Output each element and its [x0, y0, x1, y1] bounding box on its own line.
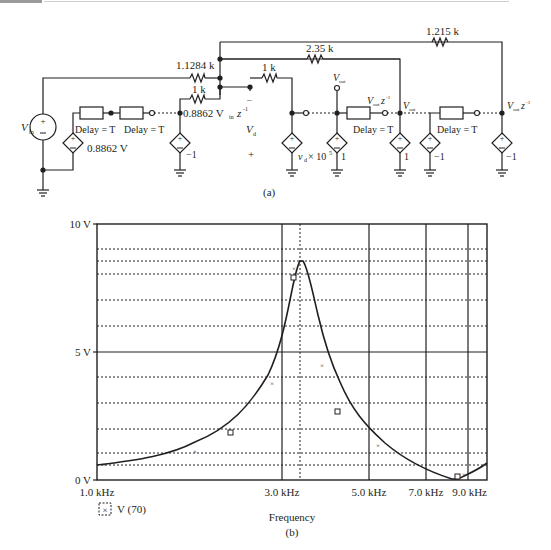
- x-tick-7k: 7.0 kHz: [409, 486, 444, 498]
- label-vd-sub: d: [253, 131, 256, 137]
- label-delay-2: Delay = T: [124, 124, 164, 135]
- ground-icon: [37, 190, 49, 196]
- label-vin: V: [21, 121, 29, 133]
- label-vd-gain-sup: 5: [329, 150, 332, 156]
- svg-text:×: ×: [376, 442, 380, 450]
- x-markers: × × × × × × ×: [102, 265, 466, 479]
- x-tick-9k: 9.0 kHz: [452, 486, 487, 498]
- label-delay-3: Delay = T: [353, 124, 393, 135]
- ground-icon: [286, 170, 298, 176]
- delay-block-4: [440, 107, 463, 119]
- label-gain-1-b: 1: [404, 151, 409, 162]
- voltage-source-vin: +: [30, 114, 56, 140]
- delay-block-2: [120, 107, 143, 119]
- label-r-2-35k: 2.35 k: [306, 42, 334, 54]
- svg-text:×: ×: [193, 448, 197, 456]
- label-r-1k-lower: 1 k: [192, 83, 206, 95]
- label-vout-z-1-sup: -1: [386, 95, 391, 100]
- figure-canvas: +: [0, 0, 551, 550]
- legend-label: V (70): [117, 503, 146, 516]
- svg-text:×: ×: [270, 380, 274, 388]
- resistor-2-35k: [220, 55, 400, 63]
- label-r-1-1284k: 1.1284 k: [176, 59, 215, 71]
- dependent-source-1-b: [390, 133, 410, 153]
- ground-icon: [174, 170, 186, 176]
- label-vout-z-2-sup: -1: [526, 100, 531, 105]
- dependent-source-neg1-c: [492, 133, 512, 153]
- svg-text:×: ×: [102, 461, 106, 469]
- y-axis-labels: 10 V 5 V 0 V: [70, 218, 92, 486]
- label-delay-1: Delay = T: [75, 124, 115, 135]
- label-vd-gain: v: [298, 151, 303, 162]
- resistor-1k-middle: [262, 74, 277, 82]
- svg-text:×: ×: [462, 471, 466, 479]
- ground-icon: [424, 170, 436, 176]
- label-node-vin-z: 0.8862 V: [183, 107, 224, 119]
- x-axis-labels: 1.0 kHz 3.0 kHz 5.0 kHz 7.0 kHz 9.0 kHz: [80, 486, 488, 498]
- dependent-source-opamp: [282, 133, 302, 153]
- dotted-gridlines-h: [97, 249, 487, 465]
- x-tick-5k: 5.0 kHz: [352, 486, 387, 498]
- dependent-source-neg1-b: [420, 133, 440, 153]
- svg-text:×: ×: [102, 505, 107, 515]
- label-minus: –: [246, 94, 252, 104]
- ground-icon: [496, 170, 508, 176]
- caption-b: (b): [286, 526, 299, 539]
- delay-block-1: [80, 107, 103, 119]
- label-gain-neg1-a: −1: [186, 149, 197, 160]
- delay-block-3: [347, 107, 370, 119]
- label-vout-top-sub: out: [339, 79, 346, 84]
- label-r-1k-middle: 1 k: [262, 61, 276, 73]
- y-tick-0v: 0 V: [75, 474, 91, 486]
- resistor-1-1284k: [190, 74, 205, 82]
- label-vout-z-1-z: z: [380, 95, 385, 106]
- label-gain-neg1-b: −1: [434, 151, 445, 162]
- label-gain-1-a: 1: [341, 151, 346, 162]
- caption-a: (a): [263, 186, 276, 199]
- y-tick-5v: 5 V: [75, 346, 91, 358]
- svg-text:×: ×: [292, 265, 296, 273]
- label-node-vin-z-sup: -1: [243, 106, 248, 112]
- label-vout-node-sub: out: [409, 107, 416, 112]
- ground-icon: [331, 170, 343, 176]
- ground-icon: [394, 170, 406, 176]
- chart-legend: × V (70): [99, 503, 146, 516]
- svg-text:×: ×: [320, 362, 324, 370]
- label-vd-gain-sub: d: [304, 157, 307, 163]
- label-vout-z-1-sub: out: [373, 102, 380, 107]
- label-node-vin-z-z: z: [236, 107, 242, 119]
- frequency-response-chart: × × × × × × × 10 V 5 V 0 V 1.0 kHz 3.0 k…: [70, 218, 488, 539]
- label-delay-4: Delay = T: [437, 124, 477, 135]
- solid-gridlines: [97, 224, 487, 480]
- dependent-source-0-8862: [63, 133, 83, 153]
- resistor-1k-lower: [190, 95, 205, 103]
- x-axis-title: Frequency: [269, 511, 316, 523]
- series-v70-curve: [97, 261, 487, 479]
- x-tick-1k: 1.0 kHz: [80, 486, 115, 498]
- label-gain-neg1-c: −1: [506, 151, 517, 162]
- x-tick-3k: 3.0 kHz: [265, 486, 300, 498]
- label-vd-gain-rest: × 10: [308, 151, 326, 162]
- y-tick-10v: 10 V: [70, 218, 92, 230]
- label-vout-z-2-z: z: [520, 100, 525, 111]
- label-r-1-215k: 1.215 k: [426, 25, 460, 37]
- label-vout-z-2-sub: out: [513, 107, 520, 112]
- label-plus: +: [248, 148, 254, 160]
- label-vin-sub: in: [29, 129, 34, 135]
- svg-text:+: +: [40, 116, 45, 126]
- label-node-vin-z-sub: in: [229, 114, 234, 120]
- label-gain-0-8862: 0.8862 V: [87, 142, 128, 154]
